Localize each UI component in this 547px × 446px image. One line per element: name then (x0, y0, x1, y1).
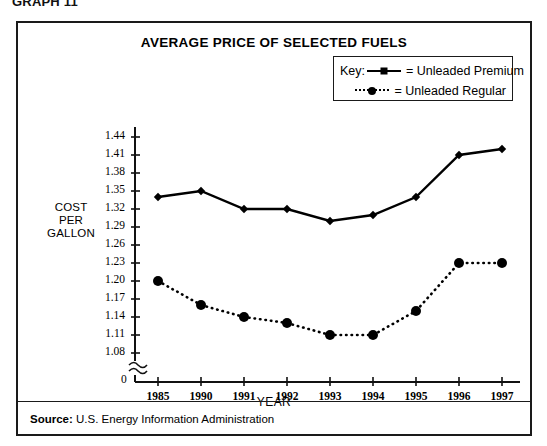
y-tick-label: 1.26 (85, 237, 125, 249)
data-point-marker (196, 300, 206, 310)
y-tick-label: 1.23 (85, 255, 125, 267)
data-point-marker (454, 258, 464, 268)
data-point-marker (326, 217, 334, 225)
y-tick-label: 1.08 (85, 345, 125, 357)
y-tick-label: 1.11 (85, 327, 125, 339)
series-line (158, 263, 502, 335)
data-point-marker (197, 187, 205, 195)
y-tick-label: 1.35 (85, 183, 125, 195)
data-point-marker (411, 306, 421, 316)
graph-page: GRAPH 11 AVERAGE PRICE OF SELECTED FUELS… (0, 0, 547, 446)
data-point-marker (498, 145, 506, 153)
y-axis-origin-label: 0 (121, 373, 127, 385)
y-tick-label: 1.17 (85, 291, 125, 303)
data-point-marker (153, 276, 163, 286)
source-line: Source: U.S. Energy Information Administ… (30, 413, 274, 425)
figure-box: AVERAGE PRICE OF SELECTED FUELS Key: = U… (16, 21, 532, 436)
data-point-marker (325, 330, 335, 340)
data-point-marker (154, 193, 162, 201)
data-point-marker (369, 211, 377, 219)
data-point-marker (497, 258, 507, 268)
y-tick-label: 1.32 (85, 201, 125, 213)
source-divider (18, 401, 530, 403)
data-point-marker (240, 205, 248, 213)
y-tick-label: 1.41 (85, 147, 125, 159)
y-tick-label: 1.14 (85, 309, 125, 321)
y-tick-label: 1.44 (85, 129, 125, 141)
y-tick-label: 1.38 (85, 165, 125, 177)
data-point-marker (282, 318, 292, 328)
plot-area: COST PER GALLON 1.441.411.381.351.321.29… (18, 23, 530, 434)
series-line (158, 149, 502, 221)
x-axis-title: YEAR (18, 395, 530, 409)
y-tick-label: 1.29 (85, 219, 125, 231)
data-point-marker (239, 312, 249, 322)
graph-caption: GRAPH 11 (12, 0, 78, 9)
source-prefix: Source: (30, 413, 73, 425)
data-point-marker (368, 330, 378, 340)
data-point-marker (283, 205, 291, 213)
y-tick-label: 1.20 (85, 273, 125, 285)
source-text: U.S. Energy Information Administration (76, 413, 274, 425)
